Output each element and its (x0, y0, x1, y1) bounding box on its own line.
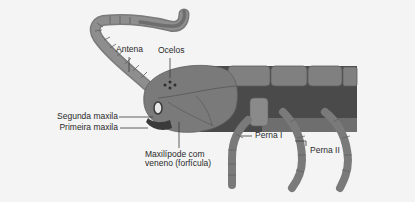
head-shape (144, 65, 238, 132)
label-antenna: Antena (116, 45, 143, 55)
label-leg-1: Perna I (255, 131, 282, 141)
centipede-illustration (0, 0, 415, 202)
label-maxilliped-line2: veneno (forfícula) (145, 159, 211, 169)
label-second-maxilla: Segunda maxila (52, 112, 118, 122)
centipede-diagram: Antena Ocelos Segunda maxila Primeira ma… (0, 0, 415, 202)
label-ocelli: Ocelos (158, 46, 184, 56)
label-leg-2: Perna II (310, 146, 340, 156)
label-first-maxilla: Primeira maxila (50, 123, 118, 133)
